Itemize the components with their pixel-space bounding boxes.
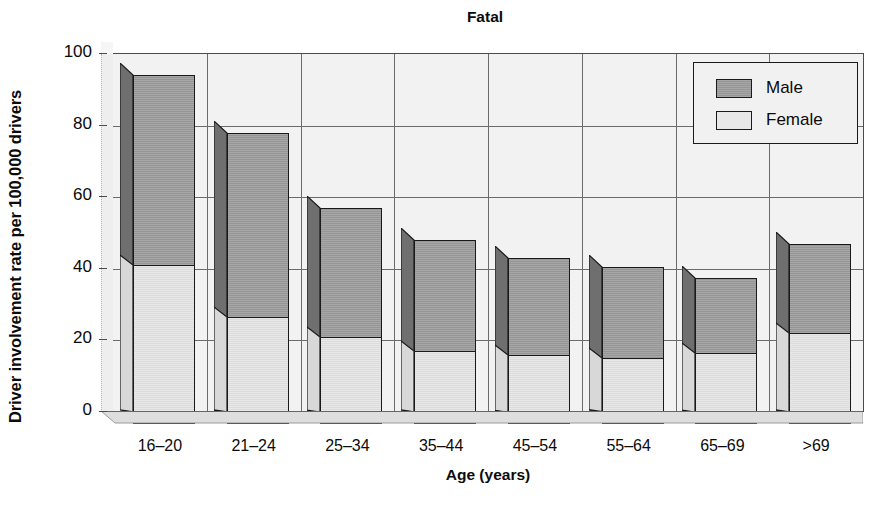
legend-swatch-female (716, 111, 752, 130)
y-tick-mark (99, 339, 107, 340)
x-tick-label: 55–64 (579, 437, 679, 455)
y-tick-mark (99, 411, 107, 412)
legend-label: Female (766, 110, 823, 130)
y-tick-mark (99, 125, 107, 126)
y-tick-label: 60 (46, 185, 92, 205)
legend-label: Male (766, 78, 803, 98)
legend: MaleFemale (693, 62, 858, 144)
chart-figure: Driver involvement rate per 100,000 driv… (0, 0, 882, 513)
y-tick-mark (99, 196, 107, 197)
x-tick-label: 21–24 (204, 437, 304, 455)
axis-floor (101, 411, 863, 430)
chart-title: Fatal (95, 8, 875, 26)
y-tick-label: 0 (46, 400, 92, 420)
axis-floor-shape (101, 411, 863, 430)
y-tick-label: 20 (46, 328, 92, 348)
y-tick-label: 40 (46, 257, 92, 277)
depth-wall (101, 54, 113, 412)
y-tick-mark (99, 268, 107, 269)
y-tick-label: 100 (46, 42, 92, 62)
legend-item: Male (716, 72, 857, 104)
legend-item: Female (716, 104, 857, 136)
legend-swatch-male (716, 79, 752, 98)
x-tick-label: 25–34 (297, 437, 397, 455)
x-tick-label: 35–44 (391, 437, 491, 455)
y-axis-title: Driver involvement rate per 100,000 driv… (0, 0, 30, 513)
x-tick-label: 45–54 (485, 437, 585, 455)
x-tick-label: 16–20 (110, 437, 210, 455)
bar-female-side-face (776, 321, 791, 414)
y-tick-label: 80 (46, 114, 92, 134)
x-tick-label: 65–69 (672, 437, 772, 455)
y-tick-mark (99, 53, 107, 54)
x-tick-label: >69 (766, 437, 866, 455)
x-axis-title: Age (years) (113, 466, 863, 484)
